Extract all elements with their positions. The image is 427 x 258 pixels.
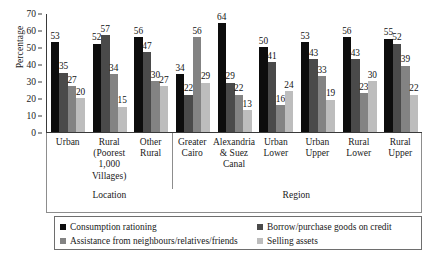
y-tick-mark bbox=[38, 99, 42, 100]
legend-item-borrow-purchase-goods-on-credit: Borrow/purchase goods on credit bbox=[257, 222, 392, 232]
bar-set: 55523922 bbox=[380, 14, 422, 132]
y-tick-mark bbox=[38, 14, 42, 15]
category-label-line: Cairo bbox=[178, 148, 206, 159]
bar-value-label: 53 bbox=[300, 32, 309, 41]
category-label-line: & Suez bbox=[213, 148, 255, 159]
bar-value-label: 24 bbox=[284, 81, 293, 90]
bar-value-label: 56 bbox=[192, 27, 201, 36]
category-label-row: UrbanRural(Poorest1,000Villages)OtherRur… bbox=[47, 133, 421, 189]
bar: 43 bbox=[351, 59, 360, 132]
bar: 15 bbox=[118, 107, 127, 133]
bar-value-label: 20 bbox=[76, 88, 85, 97]
bar-value-label: 52 bbox=[392, 33, 401, 42]
bar-set: 52573415 bbox=[89, 14, 131, 132]
y-tick-label: 20 bbox=[27, 94, 37, 104]
legend-item-selling-assets: Selling assets bbox=[257, 236, 318, 246]
y-tick-mark bbox=[38, 133, 42, 134]
legend-row-2: Assistance from neighbours/relatives/fri… bbox=[60, 234, 417, 248]
bar: 47 bbox=[143, 52, 152, 132]
bar-value-label: 52 bbox=[92, 33, 101, 42]
bar: 19 bbox=[326, 100, 335, 132]
bar-value-label: 27 bbox=[67, 76, 76, 85]
category-label-line: Lower bbox=[263, 148, 288, 159]
category-label-line: Rural bbox=[92, 137, 126, 148]
y-tick-label: 30 bbox=[27, 77, 37, 87]
bar: 39 bbox=[401, 66, 410, 132]
y-tick-label: 70 bbox=[27, 9, 37, 19]
y-tick-mark bbox=[38, 31, 42, 32]
legend-label: Selling assets bbox=[267, 236, 318, 246]
grouped-bar-chart: Percentage 010203040506070 5335272052573… bbox=[0, 0, 427, 258]
bar-value-label: 22 bbox=[234, 84, 243, 93]
bar: 16 bbox=[276, 105, 285, 132]
category-label: OtherRural bbox=[130, 133, 171, 189]
bar: 52 bbox=[93, 44, 102, 132]
legend-item-assistance-from-neighbours: Assistance from neighbours/relatives/fri… bbox=[60, 236, 257, 246]
bar-value-label: 41 bbox=[267, 52, 276, 61]
bar-value-label: 34 bbox=[175, 64, 184, 73]
bar-value-label: 33 bbox=[317, 66, 326, 75]
category-label: Alexandria& SuezCanal bbox=[213, 133, 255, 189]
bar-group: 56473027 bbox=[130, 14, 172, 132]
legend-swatch-icon bbox=[257, 238, 263, 244]
bar-value-label: 43 bbox=[309, 49, 318, 58]
bar: 57 bbox=[101, 35, 110, 132]
bar-value-label: 47 bbox=[142, 42, 151, 51]
bar: 30 bbox=[151, 81, 160, 132]
category-label: Rural(Poorest1,000Villages) bbox=[88, 133, 129, 189]
y-tick-label: 0 bbox=[31, 128, 36, 138]
bar-groups: 5335272052573415564730273422562964292213… bbox=[47, 14, 422, 132]
y-tick-mark bbox=[38, 116, 42, 117]
group-separator bbox=[172, 133, 173, 189]
bar-value-label: 16 bbox=[276, 95, 285, 104]
bar-value-label: 34 bbox=[109, 64, 118, 73]
category-label-line: Greater bbox=[178, 137, 206, 148]
bar: 53 bbox=[51, 42, 60, 132]
bar-value-label: 19 bbox=[326, 89, 335, 98]
bar-value-label: 13 bbox=[243, 100, 252, 109]
bar-value-label: 22 bbox=[184, 84, 193, 93]
category-label-line: Urban bbox=[305, 137, 329, 148]
y-tick-mark bbox=[38, 48, 42, 49]
legend-label: Assistance from neighbours/relatives/fri… bbox=[70, 236, 238, 246]
bar-set: 56432330 bbox=[339, 14, 381, 132]
bar-value-label: 29 bbox=[201, 72, 210, 81]
bar-group: 55523922 bbox=[380, 14, 422, 132]
bar-value-label: 29 bbox=[226, 72, 235, 81]
legend-swatch-icon bbox=[257, 224, 263, 230]
bar-group: 34225629 bbox=[172, 14, 214, 132]
category-label-line: Other bbox=[140, 137, 162, 148]
bar-group: 50411624 bbox=[255, 14, 297, 132]
legend-label: Consumption rationing bbox=[70, 222, 157, 232]
category-label-line: Villages) bbox=[92, 171, 126, 182]
chart-legend: Consumption rationing Borrow/purchase go… bbox=[54, 216, 422, 250]
category-label: UrbanLower bbox=[255, 133, 296, 189]
bar-value-label: 35 bbox=[59, 62, 68, 71]
bar-value-label: 56 bbox=[134, 27, 143, 36]
bar-group: 64292213 bbox=[214, 14, 256, 132]
bar-set: 56473027 bbox=[130, 14, 172, 132]
bar-set: 53433319 bbox=[297, 14, 339, 132]
bar: 20 bbox=[76, 98, 85, 132]
category-label-line: Lower bbox=[346, 148, 371, 159]
category-label: GreaterCairo bbox=[171, 133, 212, 189]
bar: 27 bbox=[160, 86, 169, 132]
category-label-line: 1,000 bbox=[92, 159, 126, 170]
category-label: RuralLower bbox=[338, 133, 379, 189]
bar: 13 bbox=[243, 110, 252, 132]
legend-item-consumption-rationing: Consumption rationing bbox=[60, 222, 257, 232]
category-label-line: Upper bbox=[388, 148, 412, 159]
bar-value-label: 43 bbox=[351, 49, 360, 58]
bar: 30 bbox=[368, 81, 377, 132]
category-label-line: Rural bbox=[346, 137, 371, 148]
y-axis-ticks: 010203040506070 bbox=[14, 14, 42, 133]
bar-set: 50411624 bbox=[255, 14, 297, 132]
bar-value-label: 39 bbox=[401, 55, 410, 64]
y-tick-mark bbox=[38, 65, 42, 66]
bar-value-label: 30 bbox=[368, 71, 377, 80]
bar: 24 bbox=[285, 91, 294, 132]
bar-value-label: 27 bbox=[159, 76, 168, 85]
legend-label: Borrow/purchase goods on credit bbox=[267, 222, 392, 232]
bar-group: 56432330 bbox=[339, 14, 381, 132]
bar: 33 bbox=[318, 76, 327, 132]
